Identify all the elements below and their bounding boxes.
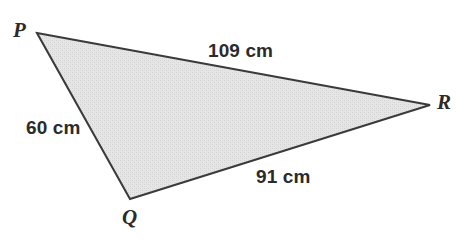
side-length-label-pr: 109 cm: [208, 41, 273, 60]
vertex-label-p: P: [13, 20, 26, 41]
side-length-label-pq: 60 cm: [26, 118, 80, 137]
vertex-label-q: Q: [122, 207, 137, 228]
vertex-label-r: R: [437, 92, 451, 113]
side-length-label-qr: 91 cm: [256, 167, 310, 186]
geometry-diagram: P Q R 109 cm 60 cm 91 cm: [0, 0, 468, 244]
